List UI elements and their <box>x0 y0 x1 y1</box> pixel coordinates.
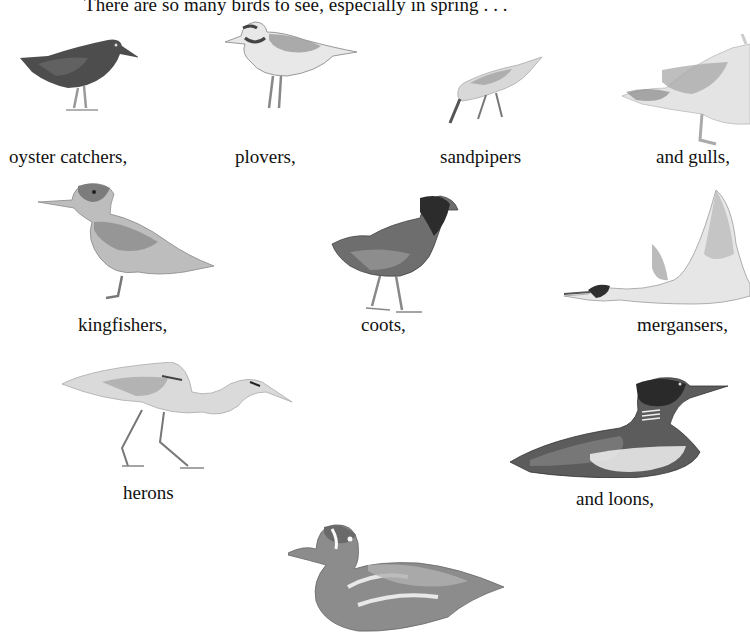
coot-illustration <box>330 190 460 316</box>
caption-plovers: plovers, <box>235 146 296 168</box>
caption-herons: herons <box>123 482 174 504</box>
kingfisher-illustration <box>38 180 216 304</box>
oyster-catcher-illustration <box>8 36 138 112</box>
gull-illustration <box>622 34 750 150</box>
merganser-illustration <box>564 184 750 308</box>
duck-illustration <box>288 521 504 633</box>
caption-coots: coots, <box>361 314 406 336</box>
intro-text: There are so many birds to see, especial… <box>84 0 508 16</box>
sandpiper-illustration <box>448 55 544 127</box>
caption-loons: and loons, <box>576 488 654 510</box>
heron-illustration <box>62 362 292 474</box>
caption-gulls: and gulls, <box>656 146 730 168</box>
caption-sandpipers: sandpipers <box>440 146 521 168</box>
caption-kingfishers: kingfishers, <box>78 314 167 336</box>
caption-oyster-catchers: oyster catchers, <box>9 146 127 168</box>
plover-illustration <box>225 20 360 112</box>
caption-mergansers: mergansers, <box>637 314 728 336</box>
loon-illustration <box>510 374 728 478</box>
